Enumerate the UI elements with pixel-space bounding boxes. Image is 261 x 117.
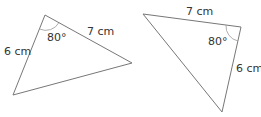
angle-arc-1: [40, 23, 60, 31]
triangle-2-side-7-label: 7 cm: [186, 5, 213, 18]
triangle-1-angle-label: 80°: [47, 31, 67, 44]
triangle-2-side-6-label: 6 cm: [236, 62, 261, 75]
triangle-2-angle-label: 80°: [208, 35, 228, 48]
triangle-1-side-7-label: 7 cm: [87, 25, 114, 38]
triangles-diagram: [0, 0, 261, 117]
triangle-1-side-6-label: 6 cm: [4, 45, 31, 58]
angle-arc-2: [226, 25, 238, 41]
